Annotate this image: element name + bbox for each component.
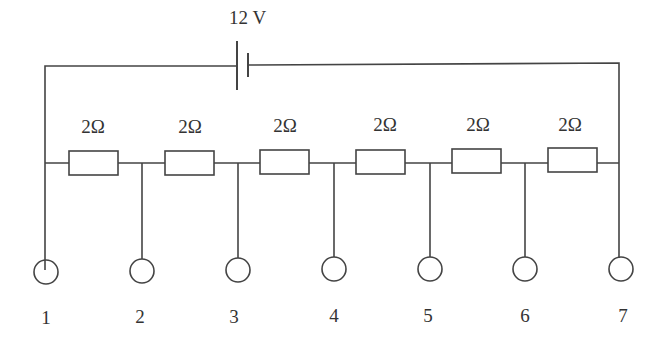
terminal-label-5: 5 xyxy=(423,306,433,325)
terminal-1 xyxy=(34,260,58,284)
resistor-5 xyxy=(452,149,501,173)
top-wire-right xyxy=(248,63,619,258)
resistor-1 xyxy=(69,151,118,175)
resistor-label-6: 2Ω xyxy=(558,115,582,134)
terminal-7 xyxy=(609,257,633,281)
circuit-wiring xyxy=(0,0,665,347)
resistor-4 xyxy=(356,150,405,174)
terminal-5 xyxy=(418,257,442,281)
resistor-label-4: 2Ω xyxy=(373,115,397,134)
resistor-label-1: 2Ω xyxy=(81,117,105,136)
terminal-label-7: 7 xyxy=(618,306,628,325)
terminal-2 xyxy=(130,259,154,283)
top-wire-left xyxy=(45,66,237,270)
resistor-label-3: 2Ω xyxy=(273,116,297,135)
resistor-label-2: 2Ω xyxy=(178,117,202,136)
resistor-label-5: 2Ω xyxy=(466,115,490,134)
resistor-2 xyxy=(165,151,214,175)
terminal-label-1: 1 xyxy=(41,308,51,327)
battery-label: 12 V xyxy=(229,8,266,27)
terminal-label-3: 3 xyxy=(229,307,239,326)
circuit-diagram: 12 V 2Ω 2Ω 2Ω 2Ω 2Ω 2Ω 1 2 3 4 5 6 7 xyxy=(0,0,665,347)
resistor-6 xyxy=(548,148,597,172)
terminal-6 xyxy=(513,257,537,281)
terminal-3 xyxy=(226,258,250,282)
terminal-label-6: 6 xyxy=(520,306,530,325)
terminal-4 xyxy=(322,257,346,281)
terminal-label-4: 4 xyxy=(329,306,339,325)
resistor-3 xyxy=(260,150,309,174)
terminal-label-2: 2 xyxy=(135,307,145,326)
